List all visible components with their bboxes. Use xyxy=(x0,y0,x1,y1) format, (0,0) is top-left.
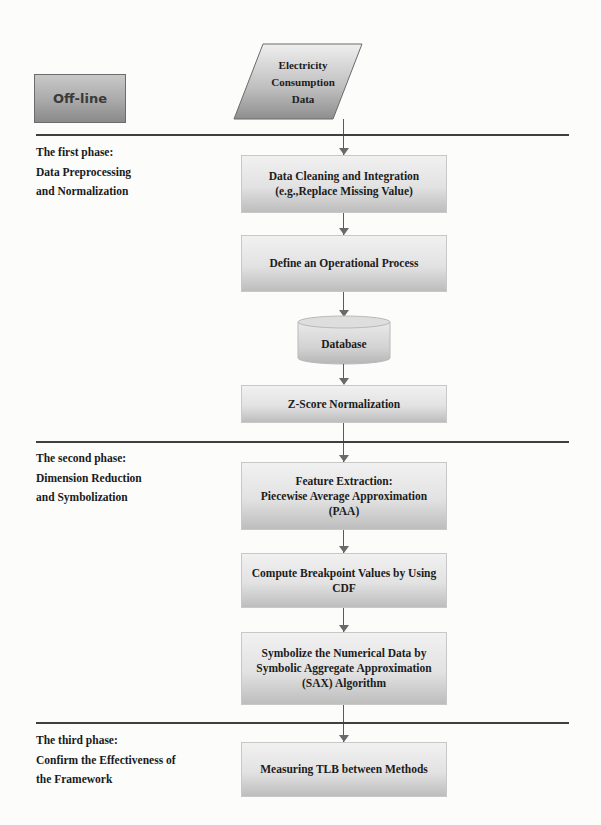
arrow-down-icon xyxy=(339,378,349,385)
step-feature-extraction-paa: Feature Extraction: Piecewise Average Ap… xyxy=(241,462,447,530)
offline-label: Off-line xyxy=(34,74,126,123)
phase-divider-2 xyxy=(36,441,569,443)
arrow-down-icon xyxy=(339,735,349,742)
step-define-operational-process: Define an Operational Process xyxy=(241,235,447,292)
step-z-score-normalization: Z-Score Normalization xyxy=(241,385,447,423)
arrow-down-icon xyxy=(339,228,349,235)
step-measuring-tlb: Measuring TLB between Methods xyxy=(241,742,447,797)
arrow-down-icon xyxy=(339,625,349,632)
step-data-cleaning: Data Cleaning and Integration (e.g.,Repl… xyxy=(241,155,447,213)
input-data-label: Electricity Consumption Data xyxy=(258,49,348,115)
arrow-down-icon xyxy=(339,546,349,553)
database-label: Database xyxy=(298,330,390,358)
arrow-down-icon xyxy=(339,455,349,462)
arrow-down-icon xyxy=(339,148,349,155)
step-compute-breakpoints: Compute Breakpoint Values by Using CDF xyxy=(241,553,447,608)
phase-divider-1 xyxy=(36,134,569,136)
offline-label-text: Off-line xyxy=(53,91,107,106)
phase-divider-3 xyxy=(36,722,569,724)
phase-3-label: The third phase: Confirm the Effectivene… xyxy=(36,731,226,790)
phase-2-label: The second phase: Dimension Reduction an… xyxy=(36,449,226,508)
phase-1-label: The first phase: Data Preprocessing and … xyxy=(36,143,226,202)
step-symbolize-sax: Symbolize the Numerical Data by Symbolic… xyxy=(241,632,447,705)
